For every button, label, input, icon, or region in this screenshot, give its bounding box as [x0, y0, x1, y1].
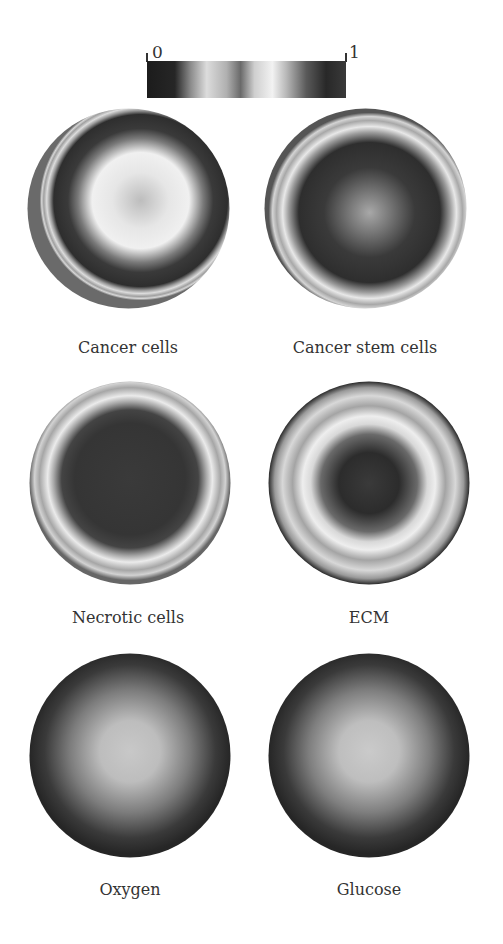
panel-glucose	[268, 653, 470, 858]
panel-label-necrotic-cells: Necrotic cells	[8, 608, 248, 627]
panel-cancer-stem-cells	[264, 108, 467, 309]
panel-label-oxygen: Oxygen	[10, 880, 250, 899]
colorbar-min-label: 0	[152, 44, 163, 61]
panel-label-glucose: Glucose	[249, 880, 489, 899]
panel-cancer-cells	[27, 108, 230, 309]
colorbar-max-label: 1	[349, 44, 360, 61]
panel-label-ecm: ECM	[249, 608, 489, 627]
panel-label-cancer-stem-cells: Cancer stem cells	[245, 338, 485, 357]
panel-necrotic-cells	[29, 381, 231, 585]
panel-label-cancer-cells: Cancer cells	[8, 338, 248, 357]
colorbar-gradient	[147, 61, 346, 98]
panel-oxygen	[29, 653, 231, 858]
panel-ecm	[268, 381, 470, 585]
